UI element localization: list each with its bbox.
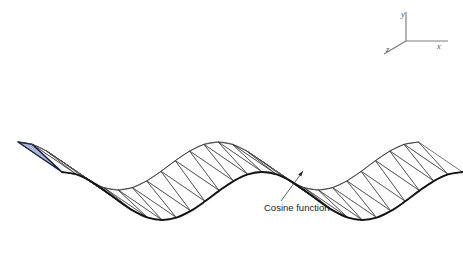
x-axis-label: x — [436, 41, 441, 51]
z-axis-label: z — [385, 44, 390, 54]
axis-indicator: x y z — [384, 9, 448, 54]
annotation-arrow-icon — [298, 171, 303, 177]
mesh-triangle — [32, 144, 76, 174]
cosine-mesh-canvas: x y z Cosine function — [0, 0, 463, 272]
cosine-function-figure: x y z Cosine function — [0, 0, 463, 272]
y-axis-label: y — [400, 9, 405, 19]
cosine-function-label: Cosine function — [264, 202, 329, 213]
